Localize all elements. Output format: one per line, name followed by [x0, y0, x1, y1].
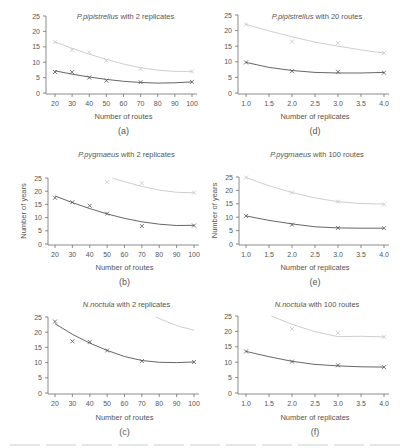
data-point-marker — [70, 339, 74, 343]
y-tick-label: 15 — [32, 43, 40, 50]
y-tick-label: 15 — [224, 343, 232, 350]
y-tick-label: 0 — [38, 241, 42, 248]
x-tick-label: 80 — [154, 100, 162, 107]
panel-label: (f) — [311, 427, 320, 437]
x-tick-label: 40 — [86, 400, 94, 407]
data-point-marker — [290, 223, 294, 227]
y-tick-label: 10 — [34, 214, 42, 221]
y-axis-label: Number of years — [210, 183, 219, 239]
data-point-marker — [140, 224, 144, 228]
fit-line-upper — [246, 178, 384, 205]
x-tick-label: 1.5 — [264, 251, 274, 258]
y-tick-label: 20 — [34, 188, 42, 195]
fit-line-lower — [246, 351, 384, 367]
chart-title: N.noctula with 2 replicates — [83, 300, 171, 309]
fit-line-upper — [156, 317, 194, 330]
panel-label: (a) — [118, 126, 129, 136]
x-tick-label: 60 — [121, 400, 129, 407]
x-tick-label: 60 — [121, 251, 129, 258]
x-tick-label: 3.0 — [333, 400, 343, 407]
x-tick-label: 2.5 — [310, 400, 320, 407]
data-point-marker — [290, 327, 294, 331]
fit-line-lower — [55, 196, 194, 226]
x-tick-label: 30 — [68, 251, 76, 258]
data-point-marker — [53, 70, 57, 74]
x-tick-label: 70 — [138, 251, 146, 258]
y-tick-label: 5 — [228, 374, 232, 381]
data-point-marker — [140, 181, 144, 185]
y-tick-label: 20 — [224, 328, 232, 335]
x-tick-label: 50 — [103, 251, 111, 258]
y-tick-label: 15 — [34, 344, 42, 351]
x-tick-label: 20 — [51, 251, 59, 258]
x-tick-label: 50 — [102, 100, 110, 107]
y-tick-label: 10 — [225, 214, 233, 221]
chart-panel-c: N.noctula with 2 replicates0510152025203… — [34, 300, 200, 437]
x-tick-label: 2.0 — [287, 251, 297, 258]
chart-panel-f: N.noctula with 100 routes05101520251.01.… — [224, 300, 389, 437]
x-tick-label: 90 — [171, 100, 179, 107]
y-tick-label: 10 — [224, 58, 232, 65]
data-point-marker — [336, 363, 340, 367]
x-tick-label: 2.0 — [287, 400, 297, 407]
y-tick-label: 10 — [224, 359, 232, 366]
x-tick-label: 1.5 — [264, 100, 274, 107]
x-tick-label: 90 — [173, 400, 181, 407]
y-tick-label: 5 — [229, 227, 233, 234]
y-tick-label: 5 — [38, 374, 42, 381]
chart-title: P.pipistrellus with 20 routes — [272, 12, 363, 21]
x-tick-label: 70 — [138, 400, 146, 407]
x-tick-label: 100 — [188, 400, 200, 407]
y-axis-label: Number of years — [19, 183, 28, 239]
y-tick-label: 25 — [32, 13, 40, 20]
x-tick-label: 3.0 — [333, 251, 343, 258]
y-tick-label: 0 — [36, 90, 40, 97]
x-tick-label: 4.0 — [379, 400, 389, 407]
x-axis-label: Number of replicates — [280, 112, 349, 121]
chart-panel-e: P.pygmaeus with 100 routes05101520251.01… — [210, 150, 389, 287]
fit-line-upper — [271, 316, 384, 337]
x-tick-label: 3.0 — [333, 100, 343, 107]
y-tick-label: 15 — [224, 43, 232, 50]
x-tick-label: 40 — [86, 251, 94, 258]
y-tick-label: 15 — [225, 200, 233, 207]
x-tick-label: 1.0 — [241, 251, 251, 258]
x-tick-label: 1.0 — [241, 400, 251, 407]
y-tick-label: 20 — [225, 187, 233, 194]
chart-title: P.pipistrellus with 2 replicates — [77, 12, 175, 21]
y-tick-label: 0 — [228, 390, 232, 397]
chart-panel-a: P.pipistrellus with 2 replicates05101520… — [32, 12, 198, 136]
y-tick-label: 25 — [224, 313, 232, 320]
x-axis-label: Number of routes — [95, 112, 153, 121]
x-tick-label: 30 — [68, 400, 76, 407]
data-point-marker — [70, 70, 74, 74]
x-tick-label: 3.5 — [356, 400, 366, 407]
fit-line-upper — [112, 178, 194, 193]
data-point-marker — [336, 41, 340, 45]
x-tick-label: 50 — [103, 400, 111, 407]
y-tick-label: 25 — [34, 314, 42, 321]
y-tick-label: 0 — [228, 90, 232, 97]
x-tick-label: 100 — [186, 100, 198, 107]
x-tick-label: 2.5 — [310, 251, 320, 258]
fit-line-upper — [55, 42, 192, 72]
x-tick-label: 4.0 — [379, 251, 389, 258]
panel-label: (b) — [119, 277, 130, 287]
x-tick-label: 2.5 — [310, 100, 320, 107]
x-tick-label: 2.0 — [287, 100, 297, 107]
x-tick-label: 100 — [188, 251, 200, 258]
chart-title: P.pygmaeus with 2 replicates — [78, 150, 175, 159]
y-tick-label: 20 — [34, 329, 42, 336]
panel-label: (c) — [119, 427, 130, 437]
chart-title: N.noctula with 100 routes — [275, 300, 360, 309]
y-tick-label: 5 — [38, 227, 42, 234]
x-tick-label: 90 — [173, 251, 181, 258]
x-axis-label: Number of routes — [96, 413, 154, 422]
cutoff-caption-line — [10, 444, 400, 446]
data-point-marker — [105, 180, 109, 184]
data-point-marker — [336, 331, 340, 335]
x-tick-label: 1.0 — [241, 100, 251, 107]
y-tick-label: 10 — [32, 59, 40, 66]
x-tick-label: 30 — [68, 100, 76, 107]
panel-label: (e) — [310, 277, 321, 287]
